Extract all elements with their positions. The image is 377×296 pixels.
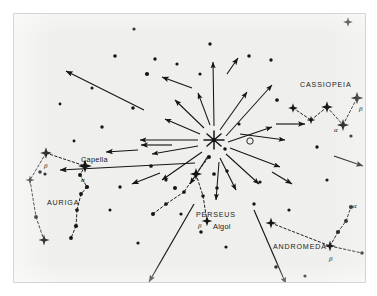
field-star — [325, 178, 328, 181]
radiant-arrow — [152, 146, 198, 154]
greek-letter-label-andromeda: β — [329, 256, 333, 263]
radiant-arrow — [228, 127, 272, 142]
meteor-trail — [227, 58, 238, 74]
field-star — [252, 202, 255, 205]
star-perseus — [207, 155, 211, 159]
field-star — [90, 86, 93, 89]
greek-letter-label-andromeda: α — [353, 203, 357, 210]
field-star — [100, 125, 103, 128]
meteor-trail — [334, 156, 363, 166]
field-star — [199, 230, 203, 234]
constellation-line-auriga — [46, 153, 85, 166]
constellation-line-perseus — [196, 174, 203, 196]
field-star — [215, 186, 219, 190]
star-auriga — [79, 192, 83, 196]
star-cassiopeia — [288, 103, 298, 113]
field-star — [136, 241, 139, 244]
constellation-line-perseus — [153, 204, 166, 214]
field-star — [198, 72, 201, 75]
radiant-arrow — [226, 85, 272, 136]
field-star — [108, 208, 111, 211]
sky-chart-panel: αβCASSIOPEIAβαCapellaAURIGAβAlgolPERSEUS… — [14, 14, 365, 282]
constellation-line-auriga — [76, 210, 77, 226]
star-auriga — [40, 147, 52, 159]
star-auriga — [34, 215, 38, 219]
radiant-arrow — [175, 100, 204, 128]
star-auriga — [75, 208, 79, 212]
star-auriga — [69, 236, 73, 240]
constellation-line-andromeda — [330, 246, 362, 253]
star-andromeda — [336, 230, 340, 234]
star-auriga — [85, 185, 89, 189]
field-star — [223, 147, 227, 151]
field-star — [145, 72, 149, 76]
sky-plot — [14, 14, 365, 282]
star-perseus — [201, 194, 205, 198]
radiant-arrow — [213, 62, 214, 126]
field-star — [212, 172, 216, 176]
star-auriga — [43, 172, 46, 175]
greek-letter-label-auriga: α — [81, 177, 85, 184]
field-star — [73, 140, 76, 143]
constellation-label-auriga: AURIGA — [47, 200, 79, 207]
field-star — [225, 169, 228, 172]
star-name-label-capella: Capella — [81, 156, 108, 163]
star-auriga — [74, 224, 78, 228]
star-perseus — [151, 212, 155, 216]
field-star — [349, 134, 352, 137]
star-name-label-algol: Algol — [213, 223, 231, 230]
field-star — [132, 27, 135, 30]
field-star — [303, 274, 306, 277]
star-cassiopeia — [351, 92, 364, 105]
field-star — [118, 185, 121, 188]
field-star — [224, 245, 227, 248]
constellation-line-cassiopeia — [293, 108, 311, 120]
star-auriga — [38, 170, 42, 174]
field-star — [149, 164, 153, 168]
field-star — [59, 103, 62, 106]
star-andromeda — [344, 219, 348, 223]
field-star — [179, 212, 182, 215]
field-star — [153, 57, 156, 60]
field-star — [113, 54, 117, 58]
field-star — [175, 62, 178, 65]
meteor-trail — [149, 204, 194, 282]
star-perseus — [182, 190, 186, 194]
star-auriga — [38, 234, 49, 245]
radiant-arrow — [220, 158, 236, 190]
constellation-label-perseus: PERSEUS — [196, 212, 236, 219]
field-star — [269, 58, 272, 61]
field-star — [274, 265, 278, 269]
greek-letter-label-cassiopeia: β — [359, 106, 363, 113]
field-star — [164, 178, 167, 181]
radiant-arrow — [198, 93, 210, 125]
field-star — [247, 54, 251, 58]
field-star — [258, 180, 261, 183]
radiant-arrow — [165, 119, 200, 134]
star-auriga — [25, 175, 34, 184]
constellation-label-cassiopeia: CASSIOPEIA — [300, 82, 351, 89]
meteor-trail — [162, 77, 192, 88]
greek-letter-label-cassiopeia: α — [334, 127, 338, 134]
field-star — [173, 186, 177, 190]
radiant-arrow — [240, 134, 285, 140]
star-andromeda — [265, 217, 276, 228]
constellation-line-auriga — [36, 217, 44, 240]
meteor-trail — [106, 150, 138, 152]
constellation-label-andromeda: ANDROMEDA — [273, 244, 327, 251]
meteor-trail — [272, 172, 292, 184]
constellation-line-cassiopeia — [343, 98, 357, 125]
constellation-line-perseus — [166, 192, 184, 204]
constellation-line-cassiopeia — [311, 107, 327, 120]
field-stars-layer — [59, 17, 365, 277]
radiant-center — [212, 138, 216, 142]
star-chart-figure: αβCASSIOPEIAβαCapellaAURIGAβAlgolPERSEUS… — [0, 0, 377, 296]
field-star — [287, 208, 290, 211]
radiant-arrows-layer — [140, 62, 285, 200]
star-cassiopeia — [337, 119, 349, 131]
star-cassiopeia — [307, 116, 316, 125]
greek-letter-label-perseus: β — [198, 223, 202, 230]
named-stars-layer — [25, 92, 363, 255]
constellation-line-andromeda — [330, 232, 338, 246]
constellation-line-auriga — [30, 180, 36, 217]
